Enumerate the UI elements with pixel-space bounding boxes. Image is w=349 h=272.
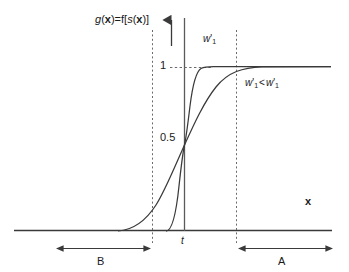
weight-compare-right-subscript: 1 xyxy=(275,82,279,89)
threshold-label: t xyxy=(181,236,184,246)
y-axis-label-close-eq-f: )=f xyxy=(111,13,124,25)
weight-label-comparison: w'1<w'1 xyxy=(245,78,279,89)
y-tick-label-one: 1 xyxy=(160,60,166,71)
x-axis-label: x xyxy=(305,196,311,207)
weight-compare-operator: < xyxy=(258,77,266,88)
region-label-b: B xyxy=(97,256,104,267)
y-tick-label-half: 0.5 xyxy=(160,132,175,143)
y-axis-label-close-bracket: )] xyxy=(142,13,149,25)
sigmoid-threshold-figure: g(x)=f[s(x)] 1 0.5 t x w'1 w'1<w'1 B A xyxy=(0,0,349,272)
y-axis-label: g(x)=f[s(x)] xyxy=(95,14,149,25)
region-label-a: A xyxy=(278,256,285,267)
weight-label-steep: w'1 xyxy=(203,34,216,45)
weight-steep-subscript: 1 xyxy=(212,38,216,45)
curve-shallow-sigmoid xyxy=(118,67,331,231)
